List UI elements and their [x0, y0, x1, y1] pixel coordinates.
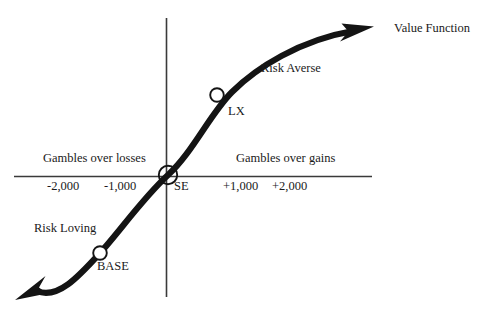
curve-arrowhead-down-left: [15, 276, 47, 300]
label-gambles-over-losses: Gambles over losses: [43, 152, 146, 165]
x-tick-label-minus-2000: -2,000: [47, 180, 79, 193]
x-tick-label-plus-2000: +2,000: [272, 180, 307, 193]
label-risk-averse: Risk Averse: [261, 62, 321, 75]
label-gambles-over-gains: Gambles over gains: [236, 152, 335, 165]
marker-lx: [210, 88, 224, 102]
label-marker-se: SE: [174, 180, 189, 193]
x-tick-label-plus-1000: +1,000: [223, 180, 258, 193]
label-marker-lx: LX: [228, 105, 245, 118]
marker-base: [93, 246, 107, 260]
label-value-function: Value Function: [394, 22, 470, 35]
label-marker-base: BASE: [97, 260, 129, 273]
value-function-figure: Value Function Risk Averse LX Gambles ov…: [0, 0, 501, 329]
label-risk-loving: Risk Loving: [34, 222, 96, 235]
x-tick-label-minus-1000: -1,000: [104, 180, 136, 193]
